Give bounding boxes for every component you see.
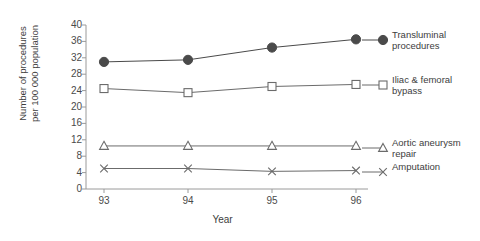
series-group-1 (100, 80, 360, 96)
data-point-open-square (184, 89, 192, 97)
chart-figure: Number of procedures per 100 000 populat… (0, 0, 480, 241)
series-group-2 (100, 141, 361, 149)
series-line (104, 84, 356, 92)
data-point-filled-circle (267, 43, 276, 52)
legend-markers (362, 35, 388, 175)
legend-label: Transluminal procedures (392, 30, 480, 51)
data-point-open-square (100, 85, 108, 93)
data-point-open-triangle (184, 141, 193, 149)
data-point-open-triangle (352, 141, 361, 149)
data-point-filled-circle (183, 55, 192, 64)
data-point-open-square (352, 80, 360, 88)
legend-label: Amputation (392, 162, 480, 173)
data-point-filled-circle (378, 35, 387, 44)
series-group-0 (99, 35, 360, 67)
data-point-open-triangle (100, 141, 109, 149)
data-point-open-square (268, 83, 276, 91)
data-point-filled-circle (351, 35, 360, 44)
series-line (104, 169, 356, 172)
series-group-3 (100, 165, 360, 175)
data-point-open-square (379, 81, 387, 89)
series-line (104, 39, 356, 62)
series-lines (99, 35, 360, 175)
data-point-open-triangle (379, 143, 388, 151)
data-point-open-triangle (268, 141, 277, 149)
legend-label: Aortic aneurysm repair (392, 138, 480, 159)
data-point-filled-circle (99, 57, 108, 66)
axes-lines (82, 25, 368, 193)
legend-label: Iliac & femoral bypass (392, 75, 480, 96)
